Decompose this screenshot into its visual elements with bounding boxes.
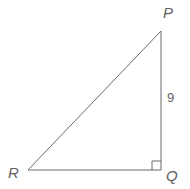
vertex-label-q: Q <box>166 168 178 183</box>
geometry-figure: P Q R 9 <box>0 0 190 189</box>
right-angle-square <box>152 161 161 170</box>
triangle-svg <box>0 0 190 189</box>
vertex-label-r: R <box>8 165 19 180</box>
side-length-label-pq: 9 <box>167 91 174 104</box>
side-rp-hypotenuse <box>28 31 161 170</box>
vertex-label-p: P <box>163 5 173 20</box>
